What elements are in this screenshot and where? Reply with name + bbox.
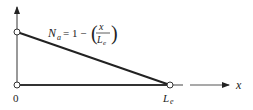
node-origin-bottom [14,82,20,88]
eq-lhs-symbol: N [47,26,57,40]
origin-label: 0 [13,92,19,104]
eq-numerator: x [98,21,104,32]
node-end [167,82,173,88]
eq-close-paren: ) [111,22,118,45]
shape-function-diagram: N a = 1 − ( x L e ) 0 L e x [0,0,253,110]
eq-denominator-subscript: e [103,39,106,47]
eq-denominator-symbol: L [96,34,103,45]
end-label-subscript: e [170,97,174,106]
eq-lhs-subscript: a [57,33,61,42]
end-label-symbol: L [162,92,169,104]
equation-label: N a = 1 − ( x L e ) [47,21,118,47]
x-axis-label: x [235,78,242,92]
eq-one-minus: = 1 − [63,27,86,39]
node-origin-top [14,29,20,35]
